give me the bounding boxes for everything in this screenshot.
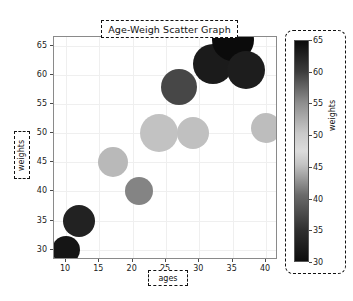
scatter-point xyxy=(177,117,209,149)
gridline-horizontal xyxy=(54,191,276,192)
scatter-point xyxy=(140,114,178,152)
scatter-point xyxy=(125,177,153,205)
x-tick-label: 30 xyxy=(193,264,203,273)
gridline-horizontal xyxy=(54,250,276,251)
plot-area xyxy=(53,36,277,259)
x-tick-label: 10 xyxy=(60,264,70,273)
x-tick-label: 40 xyxy=(260,264,270,273)
y-tick-label: 30 xyxy=(31,244,47,253)
y-axis-label-box: weights xyxy=(14,131,30,179)
y-tick-label: 40 xyxy=(31,186,47,195)
x-tick-label: 20 xyxy=(127,264,137,273)
y-tick-label: 55 xyxy=(31,99,47,108)
y-tick-label: 60 xyxy=(31,70,47,79)
scatter-point xyxy=(161,69,197,105)
y-tick-label: 65 xyxy=(31,41,47,50)
colorbar-tick-label: 40 xyxy=(313,194,323,203)
x-tick-mark xyxy=(65,259,66,262)
gridline-horizontal xyxy=(54,162,276,163)
scatter-point xyxy=(251,113,277,143)
colorbar-tick-label: 35 xyxy=(313,226,323,235)
colorbar-tick-label: 55 xyxy=(313,99,323,108)
scatter-point xyxy=(98,147,128,177)
gridline-horizontal xyxy=(54,104,276,105)
x-tick-label: 35 xyxy=(227,264,237,273)
colorbar-tick-mark xyxy=(309,230,312,231)
colorbar-tick-label: 45 xyxy=(313,162,323,171)
colorbar-tick-mark xyxy=(309,40,312,41)
colorbar-tick-mark xyxy=(309,167,312,168)
colorbar-tick-mark xyxy=(309,262,312,263)
colorbar-tick-mark xyxy=(309,103,312,104)
x-axis-label-box: ages xyxy=(148,270,188,286)
colorbar-tick-mark xyxy=(309,135,312,136)
colorbar-tick-label: 60 xyxy=(313,67,323,76)
colorbar-tick-label: 50 xyxy=(313,131,323,140)
page-title: Age-Weigh Scatter Graph xyxy=(108,24,231,35)
scatter-point xyxy=(63,205,95,237)
x-axis-label: ages xyxy=(158,274,177,283)
colorbar-tick-mark xyxy=(309,199,312,200)
y-tick-label: 50 xyxy=(31,128,47,137)
x-tick-label: 15 xyxy=(93,264,103,273)
colorbar-tick-label: 30 xyxy=(313,258,323,267)
y-tick-label: 35 xyxy=(31,215,47,224)
colorbar-box: 3035404550556065 weights xyxy=(285,30,346,274)
x-tick-mark xyxy=(265,259,266,262)
colorbar-gradient xyxy=(294,40,309,262)
scatter-point xyxy=(53,236,80,259)
gridline-vertical xyxy=(266,37,267,258)
figure-canvas: Age-Weigh Scatter Graph 10152025303540 3… xyxy=(0,0,353,301)
colorbar-tick-mark xyxy=(309,72,312,73)
x-tick-mark xyxy=(132,259,133,262)
colorbar-label: weights xyxy=(328,100,337,131)
x-tick-mark xyxy=(198,259,199,262)
y-tick-label: 45 xyxy=(31,157,47,166)
y-axis-label: weights xyxy=(18,139,27,170)
scatter-point xyxy=(227,51,265,89)
chart-title-box: Age-Weigh Scatter Graph xyxy=(101,20,238,38)
x-tick-mark xyxy=(165,259,166,262)
gridline-vertical xyxy=(133,37,134,258)
colorbar-tick-label: 65 xyxy=(313,36,323,45)
x-tick-mark xyxy=(98,259,99,262)
gridline-vertical xyxy=(99,37,100,258)
x-tick-mark xyxy=(232,259,233,262)
